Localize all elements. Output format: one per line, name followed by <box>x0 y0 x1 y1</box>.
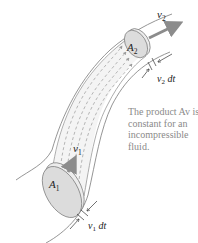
caption-line: incompressible <box>128 129 198 141</box>
caption-line: The product Av is <box>128 106 198 118</box>
caption-text: The product Av is constant for an incomp… <box>128 106 198 152</box>
velocity-v2-arrow <box>149 24 178 38</box>
label-v1-dt: v1 dt <box>88 220 106 233</box>
label-v2-dt: v2 dt <box>157 73 175 86</box>
label-v2: v2 <box>157 8 166 23</box>
caption-line: constant for an <box>128 118 198 130</box>
caption-line: fluid. <box>128 141 198 153</box>
